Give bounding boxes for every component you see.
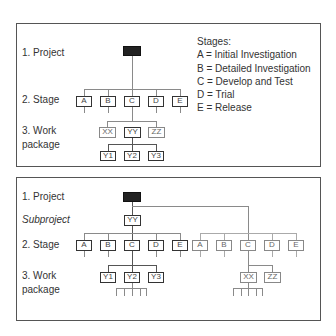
connector bbox=[224, 233, 225, 240]
work-package-xx: XX bbox=[240, 272, 257, 283]
connector bbox=[108, 89, 109, 96]
connector bbox=[132, 251, 133, 272]
connector bbox=[156, 251, 157, 257]
connector bbox=[108, 144, 157, 145]
work-package-y3: Y3 bbox=[148, 272, 164, 283]
right-stage-node-c: C bbox=[240, 240, 256, 251]
connector bbox=[132, 202, 133, 215]
left-stage-node-e: E bbox=[172, 240, 188, 251]
connector bbox=[108, 265, 109, 272]
level-label-subproject: Subproject bbox=[22, 214, 70, 226]
connector bbox=[248, 206, 249, 240]
right-stage-node-b: B bbox=[216, 240, 232, 251]
stage-node-a: A bbox=[76, 96, 92, 107]
connector bbox=[108, 107, 109, 113]
sub-package-y1: Y1 bbox=[100, 151, 116, 161]
connector bbox=[233, 288, 263, 289]
work-package-xx: XX bbox=[99, 127, 116, 138]
project-node bbox=[123, 46, 141, 56]
work-package-yy: YY bbox=[124, 127, 141, 138]
legend-item-d: D = Trial bbox=[197, 88, 311, 101]
connector bbox=[296, 251, 297, 257]
connector bbox=[84, 251, 85, 257]
connector bbox=[156, 89, 157, 96]
connector bbox=[108, 251, 109, 257]
connector bbox=[256, 288, 257, 296]
left-stage-node-b: B bbox=[100, 240, 116, 251]
level-label-stage: 2. Stage bbox=[22, 239, 59, 251]
connector bbox=[156, 233, 157, 240]
connector bbox=[84, 89, 85, 96]
connector bbox=[156, 107, 157, 113]
sub-package-y2: Y2 bbox=[124, 151, 140, 161]
connector bbox=[84, 233, 85, 240]
connector bbox=[272, 233, 273, 240]
right-stage-node-e: E bbox=[288, 240, 304, 251]
connector bbox=[108, 233, 109, 240]
connector bbox=[241, 288, 242, 296]
connector bbox=[272, 251, 273, 257]
connector bbox=[296, 233, 297, 240]
connector bbox=[156, 265, 157, 272]
connector bbox=[84, 89, 180, 90]
connector bbox=[248, 251, 249, 272]
connector bbox=[132, 206, 249, 207]
connector bbox=[224, 251, 225, 257]
level-label-package: package bbox=[22, 284, 60, 296]
level-label-stage: 2. Stage bbox=[22, 94, 59, 106]
connector bbox=[180, 107, 181, 113]
connector bbox=[108, 144, 109, 151]
connector bbox=[146, 288, 147, 296]
project-node bbox=[123, 192, 141, 202]
connector bbox=[84, 107, 85, 113]
connector bbox=[180, 89, 181, 96]
subproject-node-yy: YY bbox=[124, 215, 141, 226]
left-stage-node-a: A bbox=[76, 240, 92, 251]
connector bbox=[180, 233, 181, 240]
legend-title: Stages: bbox=[197, 35, 311, 48]
work-package-zz: ZZ bbox=[148, 127, 165, 138]
legend-item-b: B = Detailed Investigation bbox=[197, 62, 311, 75]
sub-package-y3: Y3 bbox=[148, 151, 164, 161]
stage-node-b: B bbox=[100, 96, 116, 107]
legend-item-e: E = Release bbox=[197, 101, 311, 114]
work-package-y1: Y1 bbox=[100, 272, 116, 283]
connector bbox=[200, 233, 296, 234]
connector bbox=[116, 288, 117, 296]
connector bbox=[156, 144, 157, 151]
connector bbox=[200, 233, 201, 240]
connector bbox=[84, 233, 180, 234]
legend-item-c: C = Develop and Test bbox=[197, 75, 311, 88]
stage-node-e: E bbox=[172, 96, 188, 107]
connector bbox=[262, 288, 263, 296]
connector bbox=[272, 265, 273, 272]
connector bbox=[233, 288, 234, 296]
left-stage-node-d: D bbox=[148, 240, 164, 251]
level-label-project: 1. Project bbox=[22, 191, 64, 203]
right-stage-node-d: D bbox=[264, 240, 280, 251]
legend-item-a: A = Initial Investigation bbox=[197, 48, 311, 61]
connector bbox=[180, 251, 181, 257]
stage-node-d: D bbox=[148, 96, 164, 107]
work-package-y2: Y2 bbox=[124, 272, 140, 283]
right-stage-node-a: A bbox=[192, 240, 208, 251]
level-label-work: 3. Work bbox=[22, 125, 56, 137]
left-stage-node-c: C bbox=[124, 240, 140, 251]
stage-node-c: C bbox=[124, 96, 140, 107]
level-label-project: 1. Project bbox=[22, 47, 64, 59]
level-label-package: package bbox=[22, 139, 60, 151]
stages-legend: Stages: A = Initial Investigation B = De… bbox=[197, 35, 311, 115]
connector bbox=[200, 251, 201, 257]
connector bbox=[248, 265, 273, 266]
connector bbox=[116, 288, 147, 289]
work-package-zz: ZZ bbox=[264, 272, 281, 283]
connector bbox=[132, 282, 133, 296]
connector bbox=[124, 288, 125, 296]
connector bbox=[107, 121, 157, 122]
connector bbox=[140, 288, 141, 296]
connector bbox=[248, 282, 249, 296]
connector bbox=[108, 265, 157, 266]
level-label-work: 3. Work bbox=[22, 270, 56, 282]
